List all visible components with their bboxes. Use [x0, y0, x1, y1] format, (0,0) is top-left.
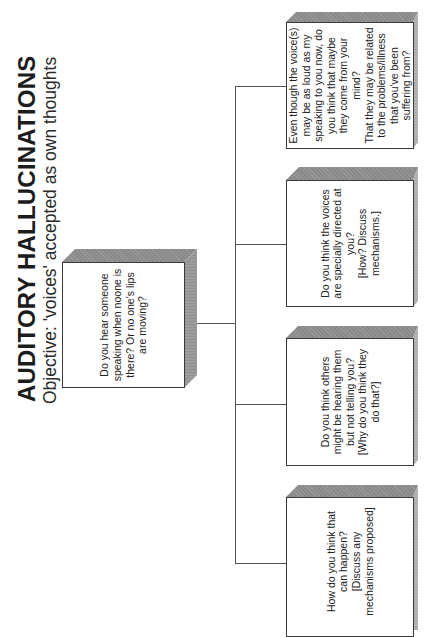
- branch-line-2: [235, 244, 286, 245]
- root-node: Do you hear someone speaking when noone …: [62, 249, 197, 388]
- branch-line-3: [235, 404, 286, 405]
- child-node-2-text: Do you think the voices are specially di…: [286, 180, 414, 307]
- box-top-face: [286, 12, 418, 22]
- box-top-face: [286, 485, 418, 497]
- root-connector: [197, 323, 235, 324]
- child-node-3-text: Do you think others might be hearing the…: [286, 338, 414, 466]
- box-top-face: [286, 326, 418, 338]
- diagram-title: AUDITORY HALLUCINATIONS: [14, 56, 40, 402]
- child-node-2: Do you think the voices are specially di…: [286, 167, 418, 307]
- branch-line-4: [235, 563, 286, 564]
- box-top-face: [62, 249, 197, 262]
- branch-line-1: [235, 86, 286, 87]
- child-node-3: Do you think others might be hearing the…: [286, 326, 418, 466]
- box-top-face: [286, 167, 418, 180]
- trunk-line: [235, 86, 236, 564]
- root-node-text: Do you hear someone speaking when noone …: [62, 262, 185, 388]
- child-node-4-text: How do you think that can happen? [Discu…: [286, 497, 414, 626]
- child-node-1: Even though the voice(s) may be as loud …: [286, 12, 418, 149]
- child-node-4: How do you think that can happen? [Discu…: [286, 485, 418, 630]
- diagram-subtitle: Objective: 'voices' accepted as own thou…: [40, 57, 60, 404]
- box-side-face: [184, 249, 197, 388]
- child-node-1-text: Even though the voice(s) may be as loud …: [286, 22, 414, 149]
